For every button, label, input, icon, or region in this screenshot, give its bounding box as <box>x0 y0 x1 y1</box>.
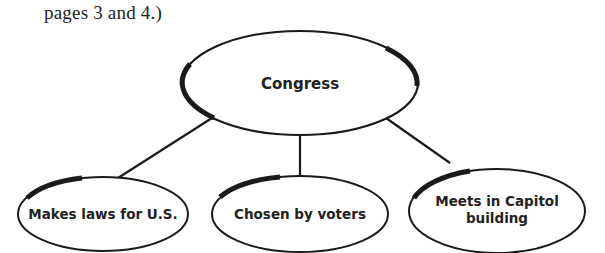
detail-node-3-label-line2: building <box>466 210 528 226</box>
detail-node-2: Chosen by voters <box>212 176 388 252</box>
connector-right <box>386 118 450 163</box>
concept-web-diagram: Congress Makes laws for U.S. Chosen by v… <box>0 0 605 253</box>
detail-node-2-label: Chosen by voters <box>234 206 366 222</box>
detail-node-1-label: Makes laws for U.S. <box>28 206 177 222</box>
center-node-label: Congress <box>261 75 339 93</box>
center-node: Congress <box>182 31 418 135</box>
detail-node-1: Makes laws for U.S. <box>18 177 188 251</box>
detail-node-3: Meets in Capitol building <box>409 169 585 253</box>
connector-left <box>118 118 212 178</box>
detail-node-3-label-line1: Meets in Capitol <box>435 193 559 209</box>
